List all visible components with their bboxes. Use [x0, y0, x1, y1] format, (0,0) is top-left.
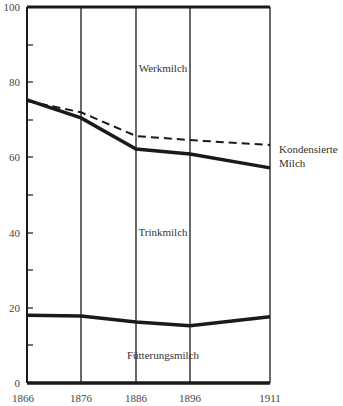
y-tick-20: 20: [9, 302, 21, 314]
fuetterungsmilch-label: Fütterungsmilch: [127, 349, 200, 361]
x-tick-1886: 1886: [125, 392, 148, 404]
y-tick-80: 80: [9, 76, 21, 88]
fuetterungsmilch-line: [27, 315, 270, 326]
y-tick-100: 100: [4, 1, 21, 13]
werkmilch-label: Werkmilch: [139, 62, 188, 74]
y-tick-40: 40: [9, 227, 21, 239]
kondensierte-label-line1: Kondensierte: [279, 143, 338, 155]
trinkmilch-label: Trinkmilch: [138, 226, 188, 238]
x-tick-1896: 1896: [179, 392, 202, 404]
x-tick-1866: 1866: [12, 392, 35, 404]
y-tick-0: 0: [15, 377, 21, 389]
y-tick-60: 60: [9, 151, 21, 163]
x-tick-1911: 1911: [259, 392, 281, 404]
kondensierte-milch-line: [27, 101, 270, 145]
x-tick-1876: 1876: [70, 392, 93, 404]
stacked-line-chart: 100 80 60 40 20 0 1866 1876 1886 1896 19…: [0, 0, 343, 406]
trinkmilch-upper-line: [27, 100, 270, 168]
kondensierte-label-line2: Milch: [279, 157, 306, 169]
